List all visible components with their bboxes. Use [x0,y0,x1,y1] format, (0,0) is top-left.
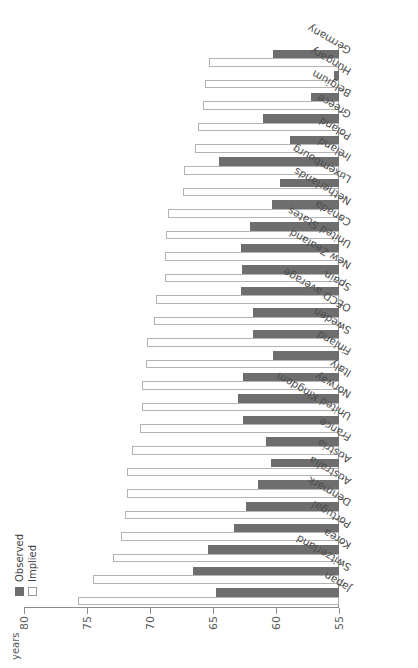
value-tick-label: 55 [333,616,346,630]
bar-implied [142,403,339,412]
bar-implied [165,252,339,261]
bar-implied [125,511,339,520]
bar-implied [132,446,339,455]
bar-implied [127,489,339,498]
bar-implied [154,317,339,326]
legend-swatch-observed [15,587,24,596]
bar-implied [113,554,339,563]
bar-implied [156,295,339,304]
chart-root: years Observed Implied 556065707580 Japa… [0,0,418,668]
chart-figure: years Observed Implied 556065707580 Japa… [0,0,418,668]
plot-area: 556065707580 JapanSwitzerlandKoreaPortug… [24,48,339,608]
bar-implied [168,209,339,218]
value-tick-label: 75 [81,616,94,630]
axis-unit-label: years [10,632,21,660]
value-tick [150,608,151,614]
bar-observed [193,567,339,576]
value-tick [24,608,25,614]
bar-implied [93,575,339,584]
value-tick-label: 60 [270,616,283,630]
value-tick-label: 65 [207,616,220,630]
bar-implied [127,468,339,477]
value-tick [339,608,340,614]
value-tick-label: 70 [144,616,157,630]
bar-observed [273,351,339,360]
value-tick [213,608,214,614]
value-axis-line [24,607,339,608]
bar-implied [146,360,339,369]
value-tick-label: 80 [18,616,31,630]
value-tick [276,608,277,614]
value-tick [87,608,88,614]
bar-implied [140,424,339,433]
bar-implied [78,597,339,606]
bar-observed [216,588,339,597]
bar-implied [147,338,339,347]
